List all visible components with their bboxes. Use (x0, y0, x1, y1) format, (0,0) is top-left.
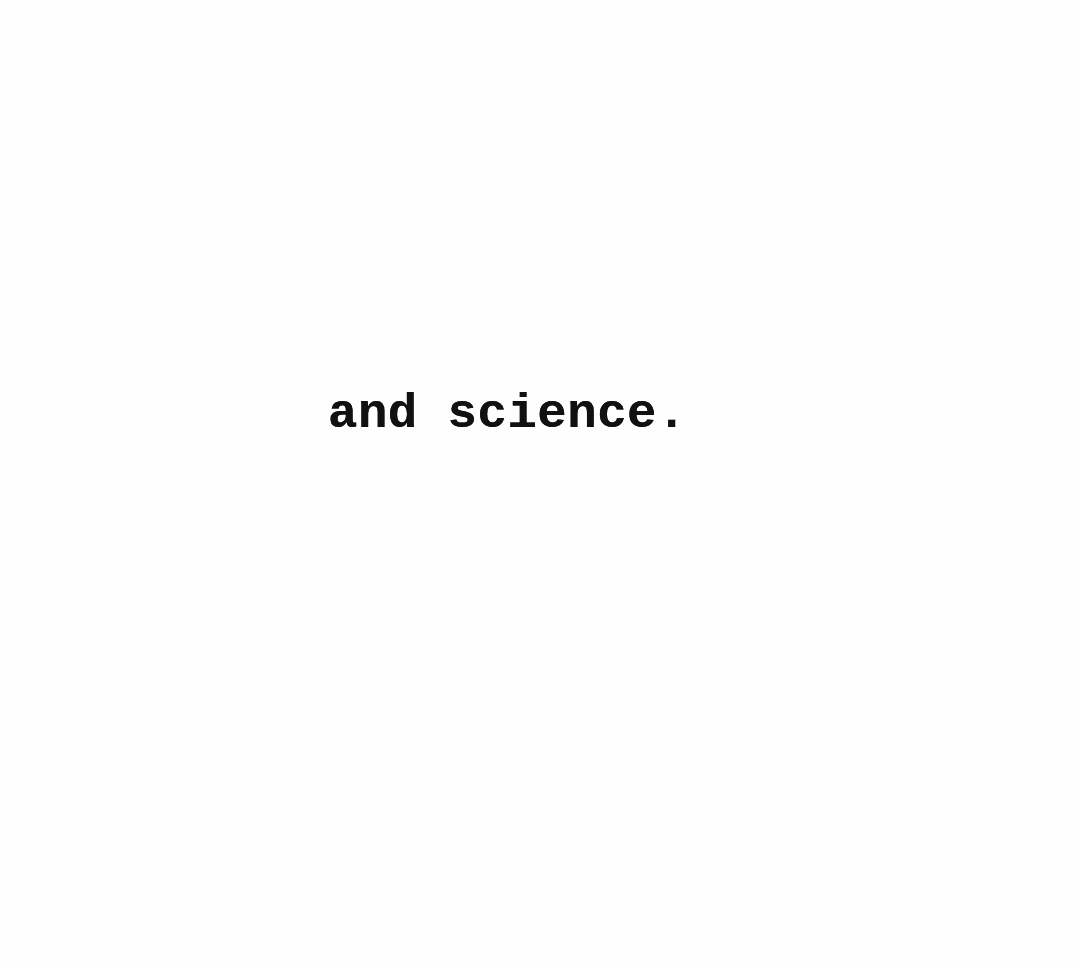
typed-text-line: and science. (328, 390, 687, 439)
document-page: and science. (0, 0, 1081, 968)
